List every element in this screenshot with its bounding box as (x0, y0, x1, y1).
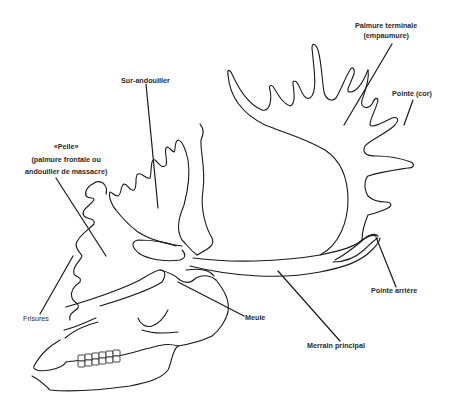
leader-palmure-terminale (344, 44, 392, 125)
frisures-outline (70, 182, 107, 320)
label-frisures: Frisures (23, 314, 49, 324)
rear-tine-outline (333, 235, 378, 263)
antler-diagram (0, 0, 455, 410)
label-pointe-arriere: Pointe arrière (371, 286, 417, 296)
leader-meule (178, 282, 244, 316)
terminal-palm-outline (228, 44, 414, 240)
label-pelle: «Pelle» (palmure frontale ou andouiller … (25, 141, 107, 179)
label-merrain-principal: Merrain principal (307, 341, 365, 351)
leader-sur-andouiller (146, 84, 158, 208)
leader-pointe-arriere (376, 237, 396, 287)
leader-merrain (278, 271, 340, 341)
skull-outline (32, 269, 228, 391)
teeth (78, 350, 120, 367)
leader-frisures (40, 256, 73, 314)
label-sur-andouiller: Sur-andouiller (121, 76, 170, 86)
label-palmure-terminale: Palmure terminale (empaumure) (355, 21, 417, 42)
main-beam-outline (190, 75, 380, 276)
leader-pelle (56, 178, 106, 256)
leader-pointe-cor (404, 100, 413, 125)
label-meule: Meule (245, 313, 265, 323)
label-pointe-cor: Pointe (cor) (392, 89, 432, 99)
